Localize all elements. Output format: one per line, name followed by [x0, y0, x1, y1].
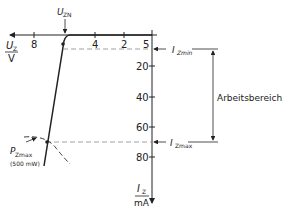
- y-tick-5: 5: [143, 39, 149, 50]
- y-tick-40: 40: [136, 92, 149, 103]
- pzmax-arrow: [26, 138, 36, 142]
- pzmax-note: (500 mW): [10, 160, 40, 167]
- svg-text:mA: mA: [134, 198, 150, 208]
- x-axis-label: U Z V: [5, 40, 18, 64]
- pzmax-point: [45, 140, 49, 144]
- y-tick-60: 60: [136, 122, 149, 133]
- svg-text:Zmin: Zmin: [176, 49, 193, 56]
- svg-text:ZN: ZN: [63, 11, 72, 18]
- y-axis: [149, 30, 155, 203]
- svg-text:I: I: [137, 183, 140, 194]
- svg-text:Z: Z: [142, 188, 146, 195]
- y-tick-20: 20: [136, 61, 149, 72]
- knee-point: [61, 42, 65, 46]
- y-axis-label: I Z mA: [134, 183, 150, 208]
- svg-text:V: V: [8, 53, 15, 64]
- izmax-label: I: [170, 138, 173, 148]
- izmin-label: I: [172, 45, 175, 55]
- x-tick-2: 2: [121, 39, 127, 50]
- zener-characteristic-diagram: 8 4 2 5 U Z V 20 40 60 80 I Z mA U ZN I …: [0, 0, 284, 212]
- x-tick-8: 8: [31, 39, 37, 50]
- svg-text:Zmax: Zmax: [15, 151, 33, 158]
- x-tick-4: 4: [92, 39, 98, 50]
- svg-text:Z: Z: [13, 45, 17, 52]
- y-tick-80: 80: [136, 152, 149, 163]
- range-label: Arbeitsbereich: [217, 93, 282, 103]
- svg-text:Zmax: Zmax: [175, 142, 193, 149]
